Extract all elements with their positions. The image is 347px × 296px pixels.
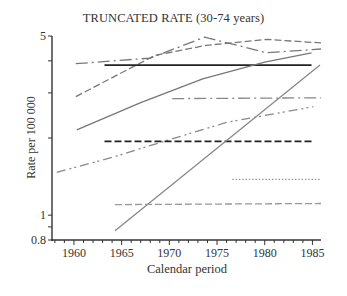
series-line-6 bbox=[57, 107, 314, 173]
x-tick-label: 1965 bbox=[110, 246, 134, 260]
y-tick-label: 1 bbox=[40, 208, 46, 222]
chart-title: TRUNCATED RATE (30-74 years) bbox=[0, 11, 347, 26]
series-line-1 bbox=[76, 37, 321, 64]
x-tick-label: 1975 bbox=[205, 246, 229, 260]
x-tick-label: 1985 bbox=[300, 246, 324, 260]
y-tick-label: 5 bbox=[40, 29, 46, 43]
x-tick-label: 1970 bbox=[157, 246, 181, 260]
x-axis-label: Calendar period bbox=[52, 262, 322, 277]
chart-canvas: 0.815196019651970197519801985 bbox=[0, 0, 347, 296]
y-axis-label: Rate per 100 000 bbox=[24, 83, 39, 193]
y-tick-label: 0.8 bbox=[31, 233, 46, 247]
series-line-8 bbox=[115, 65, 320, 231]
x-tick-label: 1960 bbox=[62, 246, 86, 260]
axes: 0.815196019651970197519801985 bbox=[31, 29, 324, 260]
x-tick-label: 1980 bbox=[253, 246, 277, 260]
plot-lines bbox=[57, 37, 321, 231]
series-line-5 bbox=[172, 98, 321, 99]
series-line-10 bbox=[115, 204, 321, 205]
series-line-2 bbox=[76, 39, 321, 96]
